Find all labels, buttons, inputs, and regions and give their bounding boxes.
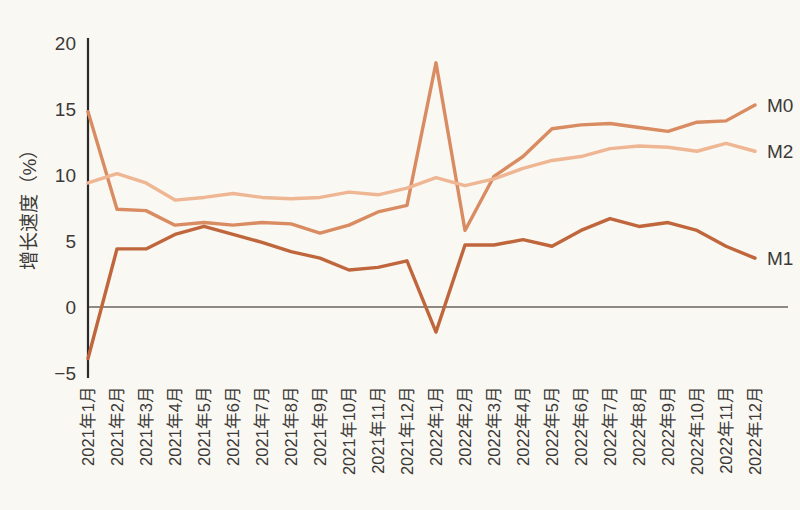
- series-label-m0: M0: [767, 95, 793, 116]
- y-axis-title-text: 增长速度（%）: [19, 140, 40, 271]
- y-tick-label: 20: [55, 33, 76, 54]
- x-tick-label: 2021年2月: [108, 386, 126, 466]
- y-tick-label: 15: [55, 99, 76, 120]
- x-tick-label: 2021年10月: [340, 386, 358, 475]
- x-tick-label: 2022年9月: [659, 386, 677, 466]
- x-tick-label: 2022年10月: [688, 386, 706, 475]
- x-tick-label: 2022年7月: [601, 386, 619, 466]
- series-label-m1: M1: [767, 248, 793, 269]
- x-tick-label: 2021年12月: [398, 386, 416, 475]
- y-tick-label: 10: [55, 165, 76, 186]
- x-tick-label: 2021年3月: [137, 386, 155, 466]
- chart-container: −505101520 M0M2M1 2021年1月2021年2月2021年3月2…: [0, 0, 800, 510]
- x-tick-label: 2021年7月: [253, 386, 271, 466]
- x-tick-label: 2022年8月: [630, 386, 648, 466]
- x-tick-label: 2022年2月: [456, 386, 474, 466]
- line-chart: −505101520 M0M2M1 2021年1月2021年2月2021年3月2…: [0, 0, 800, 510]
- y-tick-label: 5: [65, 231, 76, 252]
- x-tick-label: 2022年12月: [746, 386, 764, 475]
- x-tick-label: 2022年4月: [514, 386, 532, 466]
- x-tick-label: 2021年1月: [79, 386, 97, 466]
- y-axis-title: 增长速度（%）: [19, 140, 40, 271]
- y-tick-label: −5: [54, 363, 76, 384]
- x-tick-label: 2022年1月: [427, 386, 445, 466]
- x-tick-label: 2021年4月: [166, 386, 184, 466]
- y-tick-label: 0: [65, 297, 76, 318]
- series-label-m2: M2: [767, 141, 793, 162]
- x-tick-label: 2022年5月: [543, 386, 561, 466]
- x-tick-label: 2021年9月: [311, 386, 329, 466]
- x-tick-label: 2022年3月: [485, 386, 503, 466]
- x-tick-label: 2022年6月: [572, 386, 590, 466]
- x-tick-label: 2021年11月: [369, 386, 387, 474]
- x-tick-label: 2021年6月: [224, 386, 242, 466]
- x-tick-label: 2022年11月: [717, 386, 735, 474]
- x-tick-label: 2021年8月: [282, 386, 300, 466]
- x-tick-label: 2021年5月: [195, 386, 213, 466]
